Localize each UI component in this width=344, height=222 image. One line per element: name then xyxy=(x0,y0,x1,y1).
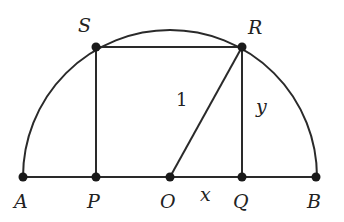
point-markers xyxy=(19,43,321,182)
point-a-label: A xyxy=(12,190,28,212)
semicircle-arc xyxy=(23,30,317,177)
point-s-label: S xyxy=(78,14,91,36)
diagram-svg: APOQBSR 1yx xyxy=(0,0,344,222)
point-r-marker xyxy=(238,43,247,52)
segment-labels: 1yx xyxy=(176,89,267,205)
y-label: y xyxy=(255,95,267,117)
point-p-label: P xyxy=(86,190,101,212)
point-labels: APOQBSR xyxy=(12,14,321,212)
point-q-marker xyxy=(238,173,247,182)
radius-label: 1 xyxy=(176,89,187,110)
point-b-marker xyxy=(312,173,321,182)
point-a-marker xyxy=(19,173,28,182)
point-p-marker xyxy=(92,173,101,182)
semicircle-rectangle-diagram: APOQBSR 1yx xyxy=(0,0,344,222)
point-r-label: R xyxy=(247,16,262,38)
point-s-marker xyxy=(92,43,101,52)
point-q-label: Q xyxy=(233,190,249,212)
point-o-label: O xyxy=(160,190,176,212)
point-b-label: B xyxy=(306,190,321,212)
point-o-marker xyxy=(166,173,175,182)
x-label: x xyxy=(200,183,211,205)
radius-segment-OR xyxy=(170,47,242,177)
